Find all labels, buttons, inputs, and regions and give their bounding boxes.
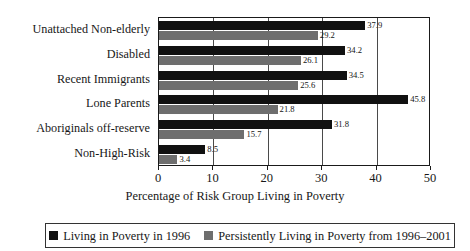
bar-value-label: 31.8 — [334, 120, 349, 129]
legend-label: Living in Poverty in 1996 — [63, 229, 190, 243]
x-axis-tick-label: 0 — [143, 171, 173, 185]
bar-value-label: 37.9 — [367, 21, 382, 30]
x-axis-tick — [267, 166, 268, 170]
bar-value-label: 29.2 — [320, 31, 335, 40]
bar — [159, 56, 301, 65]
x-axis-tick-label: 50 — [415, 171, 445, 185]
legend-label: Persistently Living in Poverty from 1996… — [218, 229, 451, 243]
gridline — [322, 18, 323, 165]
chart-legend: Living in Poverty in 1996Persistently Li… — [45, 223, 455, 248]
bar — [159, 81, 298, 90]
bar — [159, 46, 345, 55]
bar-value-label: 45.8 — [410, 95, 425, 104]
gridline — [268, 18, 269, 165]
bar-value-label: 15.7 — [246, 130, 261, 139]
bar-value-label: 25.6 — [300, 81, 315, 90]
bar — [159, 31, 318, 40]
legend-swatch-icon — [204, 231, 213, 240]
category-label: Disabled — [0, 48, 150, 61]
x-axis-tick-label: 40 — [361, 171, 391, 185]
bar — [159, 105, 278, 114]
x-axis-tick-label: 30 — [306, 171, 336, 185]
x-axis-tick — [321, 166, 322, 170]
gridline — [377, 18, 378, 165]
x-axis-title: Percentage of Risk Group Living in Pover… — [0, 189, 470, 204]
x-axis-tick-label: 20 — [252, 171, 282, 185]
category-axis-labels: Unattached Non-elderlyDisabledRecent Imm… — [0, 17, 155, 166]
category-label: Recent Immigrants — [0, 73, 150, 86]
bar-value-label: 3.4 — [179, 155, 190, 164]
legend-entry: Persistently Living in Poverty from 1996… — [204, 229, 451, 243]
x-axis-tick-label: 10 — [197, 171, 227, 185]
bar — [159, 71, 347, 80]
bar — [159, 130, 244, 139]
gridline — [213, 18, 214, 165]
bar — [159, 145, 205, 154]
plot-area: 37.934.234.545.831.88.529.226.125.621.81… — [158, 17, 430, 166]
bar — [159, 120, 332, 129]
bar-value-label: 26.1 — [303, 56, 318, 65]
bar-value-label: 34.5 — [349, 71, 364, 80]
x-axis-tick — [430, 166, 431, 170]
bar-value-label: 21.8 — [280, 105, 295, 114]
category-label: Unattached Non-elderly — [0, 23, 150, 36]
category-label: Non-High-Risk — [0, 147, 150, 160]
bar — [159, 21, 365, 30]
bar-value-label: 34.2 — [347, 46, 362, 55]
poverty-risk-group-bar-chart: Unattached Non-elderlyDisabledRecent Imm… — [0, 0, 470, 251]
x-axis-tick — [376, 166, 377, 170]
bar — [159, 155, 177, 164]
bar — [159, 95, 408, 104]
legend-swatch-icon — [49, 231, 58, 240]
x-axis-tick — [158, 166, 159, 170]
legend-entry: Living in Poverty in 1996 — [49, 229, 190, 243]
category-label: Lone Parents — [0, 97, 150, 110]
bar-value-label: 8.5 — [207, 145, 218, 154]
x-axis-tick — [212, 166, 213, 170]
category-label: Aboriginals off-reserve — [0, 122, 150, 135]
